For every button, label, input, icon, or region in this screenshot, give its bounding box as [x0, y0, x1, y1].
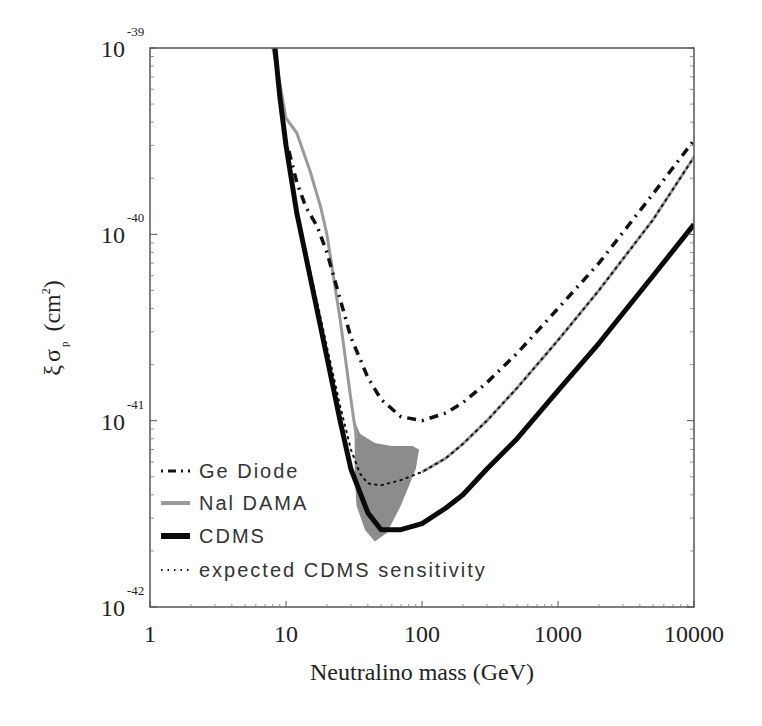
x-axis-title: Neutralino mass (GeV) — [310, 659, 534, 685]
y-tick-exponent: -41 — [127, 397, 144, 412]
x-tick-label: 100 — [404, 621, 440, 647]
legend-label: CDMS — [199, 525, 266, 547]
series-nai-dama — [273, 48, 357, 439]
y-axis-sub: p — [58, 341, 70, 347]
data-series — [273, 48, 694, 530]
legend: Ge DiodeNal DAMACDMSexpected CDMS sensit… — [161, 460, 487, 581]
y-tick-exponent: -42 — [127, 583, 144, 598]
x-tick-label: 10000 — [664, 621, 724, 647]
svg-text:ξσp(cm2): ξσp(cm2) — [39, 280, 70, 376]
exclusion-limit-chart: ξσp(cm2) Neutralino mass (GeV) 110100100… — [0, 0, 762, 726]
legend-label: Nal DAMA — [199, 492, 308, 514]
series-ge-diode — [289, 140, 694, 421]
legend-label: expected CDMS sensitivity — [199, 559, 487, 581]
y-axis-unit-close: ) — [39, 280, 65, 288]
x-tick-label: 1000 — [534, 621, 582, 647]
dama-allowed-region — [355, 421, 419, 542]
y-tick-label: 10 — [101, 595, 125, 621]
y-axis-unit: (cm — [39, 294, 65, 332]
y-tick-exponent: -40 — [127, 210, 144, 225]
y-axis-sigma: σ — [39, 349, 65, 362]
y-tick-label: 10 — [101, 36, 125, 62]
shaded-regions — [355, 421, 419, 542]
axis-ticks: 11010010001000010-3910-4010-4110-42 — [101, 24, 724, 647]
y-axis-xi: ξ — [39, 365, 65, 376]
x-tick-label: 10 — [274, 621, 298, 647]
series-nai-dama-upper-continues- — [422, 157, 694, 472]
y-tick-label: 10 — [101, 222, 125, 248]
y-tick-label: 10 — [101, 409, 125, 435]
y-axis-title: ξσp(cm2) — [39, 280, 70, 376]
legend-label: Ge Diode — [199, 460, 300, 482]
x-tick-label: 1 — [144, 621, 156, 647]
y-tick-exponent: -39 — [127, 24, 144, 39]
